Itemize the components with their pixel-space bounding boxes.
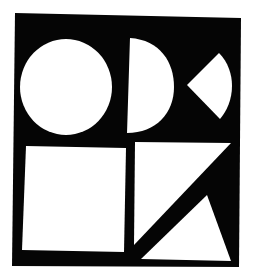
circle-shape xyxy=(20,39,112,135)
square-shape xyxy=(22,146,126,252)
geometric-shapes-artwork xyxy=(0,0,254,278)
